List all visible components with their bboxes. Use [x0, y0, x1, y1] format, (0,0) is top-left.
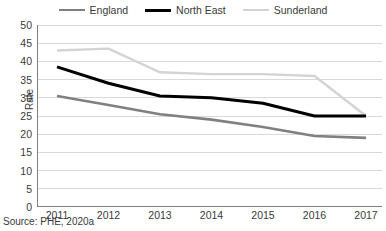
x-axis-tick-label: 2013 [137, 210, 183, 221]
y-axis-tick-label: 15 [4, 147, 32, 158]
x-axis-tick-label: 2017 [343, 210, 386, 221]
y-axis-tick-label: 10 [4, 166, 32, 177]
legend-line-swatch [243, 9, 269, 11]
plot-area [37, 25, 382, 207]
y-axis-tick-label: 45 [4, 38, 32, 49]
y-axis-title: Rate [24, 70, 35, 130]
plot-svg [37, 25, 382, 207]
y-axis-tick-label: 5 [4, 184, 32, 195]
x-axis-tick-label: 2016 [292, 210, 338, 221]
chart-legend: EnglandNorth EastSunderland [0, 0, 386, 20]
y-axis-tick-label: 40 [4, 56, 32, 67]
legend-item-label: Sunderland [274, 5, 328, 16]
x-axis-tick-label: 2014 [189, 210, 235, 221]
legend-item[interactable]: Sunderland [243, 5, 328, 16]
legend-item-label: North East [176, 5, 226, 16]
legend-line-swatch [145, 9, 171, 12]
source-note: Source: PHE, 2020a [3, 216, 94, 227]
legend-item-label: England [90, 5, 129, 16]
y-axis-tick-label: 50 [4, 20, 32, 31]
x-axis-tick-label: 2015 [240, 210, 286, 221]
legend-item[interactable]: England [59, 5, 129, 16]
chart-figure: EnglandNorth EastSunderland 504540353025… [0, 0, 386, 231]
y-axis-tick-label: 20 [4, 129, 32, 140]
legend-item[interactable]: North East [145, 5, 226, 16]
legend-line-swatch [59, 9, 85, 11]
y-axis-tick-label: 0 [4, 202, 32, 213]
